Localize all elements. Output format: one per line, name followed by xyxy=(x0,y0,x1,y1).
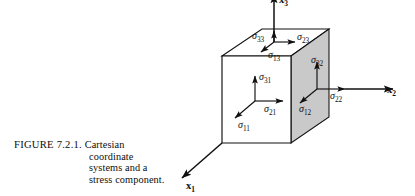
figure-caption-row-1: FIGURE 7.2.1. Cartesian xyxy=(14,139,204,151)
axis-x3-label: x3 xyxy=(279,0,288,8)
axis-x1-subscript: 1 xyxy=(191,185,195,194)
sigma-23-subscript: 23 xyxy=(302,36,310,45)
cube-front-face xyxy=(222,56,291,143)
axis-x2-label: x2 xyxy=(387,84,396,98)
axis-x3-subscript: 3 xyxy=(284,0,288,8)
figure-7-2-1: x3 x2 x1 σ33 σ23 σ13 σ31 σ21 xyxy=(0,0,415,196)
sigma-21-subscript: 21 xyxy=(269,108,277,117)
sigma-12-subscript: 12 xyxy=(304,108,312,117)
figure-caption: FIGURE 7.2.1. Cartesian coordinate syste… xyxy=(14,139,204,185)
sigma-13-subscript: 13 xyxy=(273,54,281,63)
figure-caption-row-2: coordinate xyxy=(14,151,204,163)
sigma-32-subscript: 32 xyxy=(316,59,324,68)
figure-caption-label: FIGURE 7.2.1. xyxy=(14,139,82,150)
sigma-31-subscript: 31 xyxy=(264,76,272,85)
figure-caption-row-3: systems and a xyxy=(14,162,204,174)
sigma-11-subscript: 11 xyxy=(243,124,250,133)
figure-caption-line-1: Cartesian xyxy=(85,139,125,150)
axis-x2-subscript: 2 xyxy=(392,89,396,98)
sigma-22-subscript: 22 xyxy=(335,95,343,104)
sigma-33-subscript: 33 xyxy=(257,35,265,44)
figure-caption-row-4: stress component. xyxy=(14,174,204,186)
sigma-22-label: σ22 xyxy=(330,90,343,104)
